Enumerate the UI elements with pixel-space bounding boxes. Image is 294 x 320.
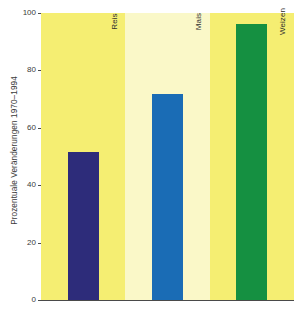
bar-weizen[interactable] [236,24,267,301]
bar-mais[interactable] [152,94,183,301]
bar-reis[interactable] [68,152,99,301]
y-tick-label: 80 [18,66,36,74]
y-tick-label: 60 [18,124,36,132]
y-tick-label: 100 [18,9,36,17]
plot-area: ReisMaisWeizen [41,13,294,301]
y-tick-label: 20 [18,239,36,247]
y-axis-tick-labels: 100806040200 [18,0,36,320]
y-tick-label: 0 [18,296,36,304]
y-tick-label: 40 [18,181,36,189]
x-axis-baseline [38,300,294,301]
bar-chart: Prozentuale Veränderungen 1970–1994 1008… [0,0,294,320]
